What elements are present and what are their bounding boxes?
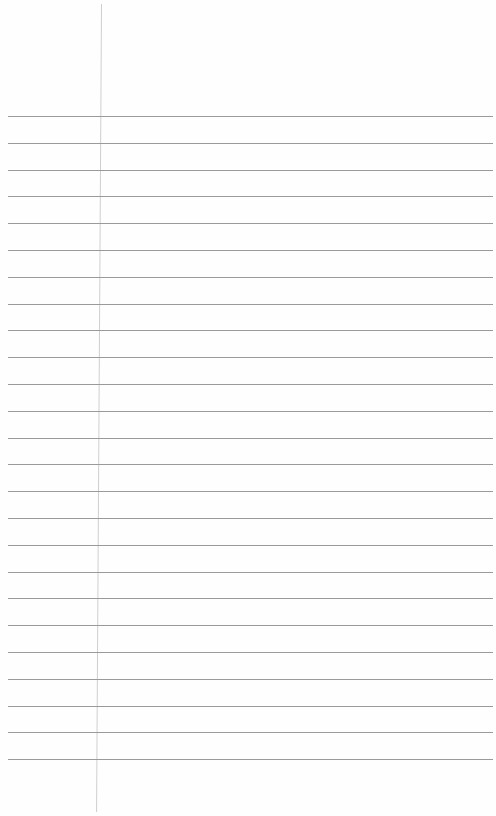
ruled-line	[8, 598, 493, 599]
ruled-line	[8, 277, 493, 278]
ruled-line	[8, 464, 493, 465]
ruled-line	[8, 384, 493, 385]
ruled-line	[8, 572, 493, 573]
ruled-line	[8, 330, 493, 331]
ruled-paper	[0, 0, 496, 816]
ruled-line	[8, 625, 493, 626]
ruled-line	[8, 545, 493, 546]
ruled-line	[8, 732, 493, 733]
ruled-line	[8, 679, 493, 680]
ruled-line	[8, 170, 493, 171]
ruled-line	[8, 223, 493, 224]
ruled-line	[8, 250, 493, 251]
ruled-line	[8, 652, 493, 653]
ruled-line	[8, 116, 493, 117]
ruled-line	[8, 357, 493, 358]
ruled-line	[8, 196, 493, 197]
ruled-line	[8, 518, 493, 519]
ruled-line	[8, 438, 493, 439]
ruled-line	[8, 491, 493, 492]
margin-line	[96, 4, 102, 812]
ruled-line	[8, 411, 493, 412]
ruled-line	[8, 759, 493, 760]
ruled-line	[8, 143, 493, 144]
ruled-line	[8, 706, 493, 707]
ruled-line	[8, 304, 493, 305]
